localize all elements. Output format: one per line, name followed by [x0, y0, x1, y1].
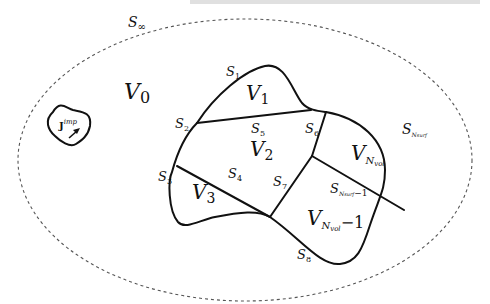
- label-s7: S7: [273, 174, 287, 191]
- label-v0: V0: [124, 79, 150, 107]
- domain-decomposition-diagram: Jimp S∞ V0 V1 V2 V3 VNvol VNvol−1 S1 S2: [0, 0, 490, 304]
- label-s-nsurf-minus-1: SNsurf−1: [330, 181, 367, 198]
- label-s2: S2: [175, 116, 189, 133]
- label-v-nvol-minus-1: VNvol−1: [307, 206, 364, 233]
- label-v1: V1: [246, 81, 269, 107]
- outer-boundary-s-infinity: [18, 19, 472, 301]
- cut-off-heading-text: [190, 0, 480, 4]
- label-s5: S5: [251, 121, 265, 138]
- label-s-infinity: S∞: [128, 14, 146, 32]
- label-s3: S3: [158, 169, 172, 186]
- label-v2: V2: [250, 137, 273, 163]
- label-v3: V3: [192, 180, 215, 206]
- label-s1: S1: [226, 64, 240, 81]
- source-arrow-icon: [69, 128, 80, 138]
- interface-s4: [177, 166, 270, 217]
- label-s6: S6: [305, 121, 319, 138]
- label-s-nsurf: SNsurf: [402, 121, 428, 139]
- source-current-label: Jimp: [58, 118, 78, 131]
- label-s4: S4: [228, 166, 242, 183]
